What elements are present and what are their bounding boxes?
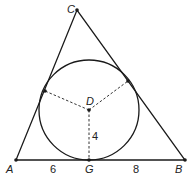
point-a xyxy=(14,158,18,162)
point-g xyxy=(87,158,91,162)
point-b xyxy=(183,158,187,162)
measure-gb: 8 xyxy=(133,164,139,175)
triangle-abc xyxy=(16,10,185,160)
label-g: G xyxy=(85,164,94,175)
radius-right xyxy=(89,81,128,110)
measure-dg: 4 xyxy=(92,131,98,142)
diagram-graphic xyxy=(0,0,195,180)
label-a: A xyxy=(6,164,13,175)
point-c xyxy=(75,8,79,12)
label-c: C xyxy=(67,4,75,15)
radius-left xyxy=(45,91,89,110)
tangent-point-left xyxy=(43,89,47,93)
point-d xyxy=(87,108,91,112)
label-d: D xyxy=(86,96,94,107)
label-b: B xyxy=(175,164,182,175)
incircle-diagram: C D A G B 6 8 4 xyxy=(0,0,195,180)
measure-ag: 6 xyxy=(50,164,56,175)
tangent-point-right xyxy=(126,79,130,83)
